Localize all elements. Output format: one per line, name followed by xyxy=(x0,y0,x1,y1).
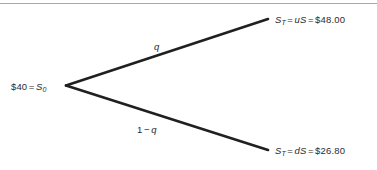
down-terminal-value: $26.80 xyxy=(315,145,345,156)
root-node-label: $40=S0 xyxy=(11,81,46,93)
down-probability-minus-sign: − xyxy=(142,124,151,135)
down-probability-value: q xyxy=(151,124,156,135)
up-terminal-symbol: S xyxy=(275,14,282,25)
down-branch-line xyxy=(66,86,268,151)
down-terminal-node-label: ST=dS=$26.80 xyxy=(275,145,345,157)
up-terminal-value: $48.00 xyxy=(315,14,345,25)
down-terminal-equals-2: = xyxy=(306,145,315,156)
up-terminal-equals-2: = xyxy=(306,14,315,25)
up-branch-probability-label: q xyxy=(154,41,159,52)
down-terminal-subscript: T xyxy=(282,150,286,157)
up-probability-value: q xyxy=(154,41,159,52)
root-equals-sign: = xyxy=(27,81,36,92)
binomial-tree-figure: $40=S0 q 1−q ST=uS=$48.00 ST=dS=$26.80 xyxy=(0,0,377,170)
up-terminal-node-label: ST=uS=$48.00 xyxy=(275,14,345,26)
down-terminal-symbol: S xyxy=(275,145,282,156)
down-terminal-factor: dS xyxy=(294,145,306,156)
up-branch-line xyxy=(66,19,268,86)
root-symbol: S xyxy=(36,81,43,92)
up-terminal-factor: uS xyxy=(294,14,306,25)
root-price-value: $40 xyxy=(11,81,27,92)
down-branch-probability-label: 1−q xyxy=(137,124,157,135)
root-symbol-subscript: 0 xyxy=(43,86,47,93)
up-terminal-subscript: T xyxy=(282,19,286,26)
